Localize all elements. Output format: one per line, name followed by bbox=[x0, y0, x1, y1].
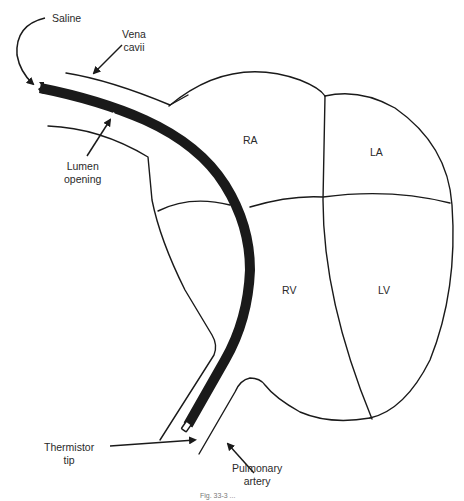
label-right-ventricle: RV bbox=[282, 284, 296, 296]
septum-line bbox=[323, 96, 372, 419]
av-groove-line bbox=[158, 194, 450, 211]
label-saline: Saline bbox=[52, 12, 81, 25]
right-atrium-outline bbox=[169, 72, 325, 106]
label-lumen-line1: Lumen bbox=[64, 160, 101, 173]
label-pulmonary-line2: artery bbox=[232, 475, 282, 488]
label-lumen-line2: opening bbox=[64, 173, 101, 186]
thermistor-arrow bbox=[110, 440, 195, 446]
label-lumen-opening: Lumen opening bbox=[64, 160, 101, 186]
label-left-ventricle: LV bbox=[378, 284, 390, 296]
label-vena-cavii: Vena cavii bbox=[122, 28, 146, 54]
label-thermistor-tip: Thermistor tip bbox=[44, 441, 94, 467]
thermistor-tip bbox=[181, 421, 191, 432]
figure-caption: Fig. 33-3 ... bbox=[200, 492, 235, 499]
left-atrium-outline bbox=[325, 94, 453, 418]
ventricle-bottom-outline bbox=[199, 378, 370, 454]
label-vena-cavii-line2: cavii bbox=[122, 41, 146, 54]
label-left-atrium: LA bbox=[370, 146, 383, 158]
label-thermistor-line1: Thermistor bbox=[44, 441, 94, 454]
label-right-atrium: RA bbox=[243, 134, 258, 146]
vena-cava-arrow bbox=[94, 45, 122, 73]
lumen-opening-arrow bbox=[87, 120, 110, 156]
saline-arrow bbox=[17, 18, 45, 84]
catheter-proximal-end bbox=[38, 82, 44, 94]
label-pulmonary-artery: Pulmonary artery bbox=[232, 462, 282, 488]
label-vena-cavii-line1: Vena bbox=[122, 28, 146, 41]
label-thermistor-line2: tip bbox=[44, 454, 94, 467]
catheter-body bbox=[40, 88, 250, 425]
label-pulmonary-line1: Pulmonary bbox=[232, 462, 282, 475]
heart-diagram bbox=[0, 0, 464, 501]
